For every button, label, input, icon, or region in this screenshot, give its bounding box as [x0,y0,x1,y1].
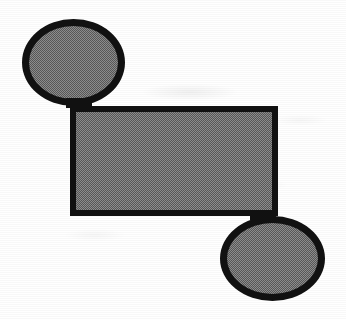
bottom-right-ellipse-label [227,223,228,224]
top-left-ellipse[interactable] [22,19,125,106]
rectangle-to-ellipse-bottom-connector [250,210,276,220]
center-rectangle[interactable] [70,106,278,216]
top-left-ellipse-label [29,26,30,27]
diagram-canvas [0,0,346,319]
bottom-right-ellipse[interactable] [220,216,325,301]
center-rectangle-label [76,112,77,113]
ellipse-to-rectangle-top-connector [66,98,92,108]
